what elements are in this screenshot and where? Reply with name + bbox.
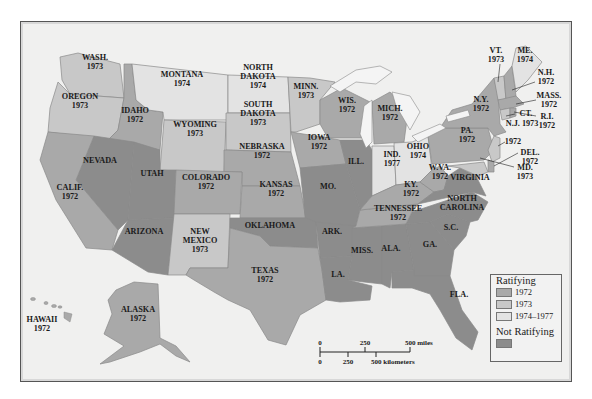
svg-text:1972: 1972 [257,275,273,284]
svg-text:MONTANA: MONTANA [161,70,204,79]
state-florida [392,270,478,350]
svg-text:LA.: LA. [331,270,344,279]
svg-text:WIS.: WIS. [338,96,356,105]
svg-text:MO.: MO. [320,182,336,191]
svg-text:1972: 1972 [505,137,521,146]
svg-text:W.VA.: W.VA. [429,163,451,172]
svg-text:500 kilometers: 500 kilometers [371,358,415,366]
svg-text:VIRGINIA: VIRGINIA [450,173,490,182]
svg-text:R.I.: R.I. [540,112,553,121]
svg-text:ARK.: ARK. [322,227,342,236]
swatch-1974-1977 [496,312,512,321]
svg-text:UTAH: UTAH [140,169,164,178]
svg-text:TENNESSEE: TENNESSEE [374,204,423,213]
svg-text:WASH.: WASH. [82,53,108,62]
svg-text:N.J. 1973: N.J. 1973 [506,119,539,128]
svg-text:ALA.: ALA. [381,244,400,253]
svg-text:S.C.: S.C. [444,223,459,232]
svg-text:CAROLINA: CAROLINA [440,203,485,212]
svg-text:1972: 1972 [473,104,489,113]
svg-text:1972: 1972 [254,151,270,160]
svg-text:OREGON: OREGON [62,92,98,101]
svg-text:FLA.: FLA. [450,290,468,299]
svg-text:PA.: PA. [461,126,473,135]
svg-text:1972: 1972 [382,113,398,122]
svg-text:N.Y.: N.Y. [473,95,488,104]
svg-text:1973: 1973 [488,55,504,64]
swatch-not-ratifying [496,339,512,348]
svg-text:MASS.: MASS. [537,91,562,100]
state-ri [510,108,516,118]
svg-text:IDAHO: IDAHO [121,106,149,115]
svg-text:N.H.: N.H. [538,68,554,77]
svg-text:1973: 1973 [298,91,314,100]
legend-ratifying-title: Ratifying [496,275,561,286]
svg-text:1974: 1974 [250,81,266,90]
svg-text:VT.: VT. [490,46,503,55]
svg-text:1972: 1972 [432,172,448,181]
svg-text:ME.: ME. [517,46,532,55]
svg-text:1972: 1972 [62,192,78,201]
svg-text:1974: 1974 [410,151,426,160]
legend-not-ratifying-title: Not Ratifying [496,326,561,337]
svg-text:MINN.: MINN. [294,82,319,91]
svg-text:MICH.: MICH. [377,104,402,113]
svg-text:ILL.: ILL. [348,157,364,166]
svg-text:NORTH: NORTH [447,194,477,203]
svg-text:1972: 1972 [339,105,355,114]
svg-text:TEXAS: TEXAS [251,266,279,275]
legend-item-not-ratifying [496,337,561,349]
svg-text:NEBRASKA: NEBRASKA [239,142,285,151]
svg-text:500 miles: 500 miles [405,339,433,347]
svg-text:IND.: IND. [383,150,400,159]
svg-text:1972: 1972 [541,100,557,109]
svg-text:COLORADO: COLORADO [182,173,230,182]
svg-text:DAKOTA: DAKOTA [240,72,275,81]
svg-text:1973: 1973 [72,101,88,110]
svg-text:NORTH: NORTH [243,63,273,72]
legend-item-1974-1977: 1974–1977 [496,310,561,322]
svg-text:NEVADA: NEVADA [83,156,117,165]
svg-text:ARIZONA: ARIZONA [125,227,164,236]
svg-text:MD.: MD. [517,163,533,172]
svg-text:1977: 1977 [384,159,400,168]
state-delaware [488,160,494,172]
lake-superior [330,66,392,92]
legend-item-1973: 1973 [496,298,561,310]
svg-text:DAKOTA: DAKOTA [240,109,275,118]
state-alaska [100,282,190,364]
svg-text:1972: 1972 [403,189,419,198]
svg-text:KY.: KY. [404,180,418,189]
swatch-1972 [496,288,512,297]
svg-text:ALASKA: ALASKA [121,305,155,314]
svg-text:1972: 1972 [198,182,214,191]
svg-text:MISS.: MISS. [351,246,373,255]
svg-text:OKLAHOMA: OKLAHOMA [245,221,296,230]
scale-bar: 0 250 500 miles 0 250 500 kilometers [318,339,433,366]
svg-text:250: 250 [360,339,371,347]
svg-text:1972: 1972 [459,135,475,144]
svg-text:1972: 1972 [130,314,146,323]
svg-text:GA.: GA. [423,240,437,249]
svg-text:1972: 1972 [268,189,284,198]
svg-text:1973: 1973 [187,129,203,138]
legend-item-1972: 1972 [496,286,561,298]
svg-text:1973: 1973 [192,245,208,254]
state-mississippi [348,226,382,284]
svg-text:KANSAS: KANSAS [259,180,293,189]
svg-text:0: 0 [318,339,322,347]
svg-text:1972: 1972 [311,142,327,151]
svg-text:MEXICO: MEXICO [183,236,218,245]
svg-text:SOUTH: SOUTH [244,100,273,109]
svg-text:1972: 1972 [538,77,554,86]
svg-text:1972: 1972 [34,324,50,333]
svg-text:1974: 1974 [517,55,533,64]
svg-text:CALIF.: CALIF. [57,183,84,192]
svg-text:0: 0 [318,358,322,366]
svg-text:1973: 1973 [87,62,103,71]
swatch-1973 [496,300,512,309]
map-legend: Ratifying 1972 1973 1974–1977 Not Ratify… [490,274,562,362]
svg-text:1972: 1972 [539,121,555,130]
svg-text:1973: 1973 [250,118,266,127]
svg-text:1972: 1972 [127,115,143,124]
